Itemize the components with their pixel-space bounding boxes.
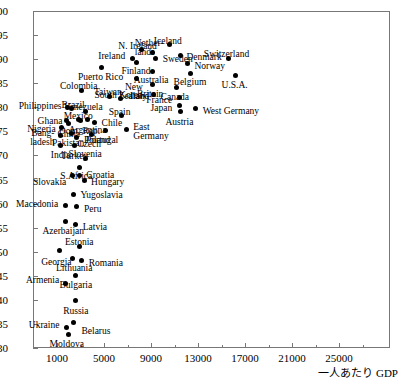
y-tick-label: 65 <box>0 174 8 185</box>
y-tick-label: 70 <box>0 150 8 161</box>
y-tick-label: 100 <box>0 6 8 17</box>
data-point <box>134 60 139 65</box>
data-point-label: Chile <box>102 118 123 128</box>
y-tick-mark <box>33 300 38 301</box>
y-tick-mark <box>33 83 38 84</box>
y-tick-label: 60 <box>0 198 8 209</box>
x-tick-mark <box>245 343 246 348</box>
data-point <box>71 192 76 197</box>
data-point-label: Austria <box>165 117 193 127</box>
data-point <box>150 82 155 87</box>
x-tick-mark-minor <box>175 345 176 348</box>
x-tick-mark <box>292 343 293 348</box>
data-point-label: Venezuela <box>64 102 103 112</box>
y-tick-label: 40 <box>0 294 8 305</box>
data-point-label: Romania <box>89 258 123 268</box>
data-point <box>153 56 158 61</box>
data-point-label: Russia <box>63 306 88 316</box>
x-tick-mark <box>151 343 152 348</box>
y-tick-mark <box>33 155 38 156</box>
x-tick-label: 1000 <box>46 353 68 364</box>
x-tick-label: 25000 <box>325 353 353 364</box>
data-point-label: Belarus <box>81 326 110 336</box>
x-tick-label: 17000 <box>231 353 259 364</box>
data-point-label: EastGermany <box>133 123 168 141</box>
data-point-label: Bulgaria <box>59 280 92 290</box>
x-tick-mark-minor <box>363 345 364 348</box>
data-point <box>64 325 69 330</box>
y-tick-mark <box>33 59 38 60</box>
data-point-label: Moldova <box>50 339 84 349</box>
x-tick-label: 21000 <box>278 353 306 364</box>
data-point-label: Japan <box>151 103 173 113</box>
data-point-label: Switzerland <box>204 49 249 59</box>
data-point-label: Azerbaijan <box>42 226 84 236</box>
x-tick-mark-minor <box>269 345 270 348</box>
data-point-label: Latvia <box>83 222 107 232</box>
data-point-label: Spain <box>109 107 131 117</box>
x-tick-label: 5000 <box>93 353 115 364</box>
data-point-label: Georgia <box>41 257 71 267</box>
data-point-label: Philippines <box>19 101 62 111</box>
data-point-label: Puerto Rico <box>78 72 123 82</box>
data-point <box>177 103 182 108</box>
y-tick-mark <box>33 35 38 36</box>
data-point <box>178 109 183 114</box>
data-point-label: Yugoslavia <box>80 190 122 200</box>
y-tick-mark <box>33 11 38 12</box>
data-point-label: U.S.A. <box>222 80 248 90</box>
scatter-chart: 3035404550556065707580859095100 10005000… <box>0 0 402 384</box>
y-tick-label: 50 <box>0 246 8 257</box>
y-tick-label: 55 <box>0 222 8 233</box>
data-point-label: Iceland <box>154 36 182 46</box>
x-axis-title: 一人あたり GDP <box>318 367 398 379</box>
y-tick-label: 75 <box>0 126 8 137</box>
y-tick-label: 90 <box>0 54 8 65</box>
x-tick-label: 13000 <box>184 353 212 364</box>
data-point <box>92 120 97 125</box>
data-point-label: Portugal <box>86 135 118 145</box>
y-tick-label: 80 <box>0 102 8 113</box>
data-point-label: Ukraine <box>29 320 60 330</box>
data-point-label: Macedonia <box>16 199 58 209</box>
y-tick-label: 85 <box>0 78 8 89</box>
data-point-label: West Germany <box>203 106 259 116</box>
x-tick-label: 9000 <box>140 353 162 364</box>
x-tick-mark-minor <box>128 345 129 348</box>
data-point-label: Ireland <box>98 51 125 61</box>
data-point <box>124 127 129 132</box>
data-point-label: Colombia <box>60 81 97 91</box>
x-tick-mark-minor <box>316 345 317 348</box>
data-point-label: Armenia <box>26 275 59 285</box>
y-tick-mark <box>33 228 38 229</box>
data-point-label: S.Africa <box>60 171 92 181</box>
y-tick-label: 30 <box>0 343 8 354</box>
y-tick-mark <box>33 252 38 253</box>
x-tick-mark <box>104 343 105 348</box>
x-tick-mark <box>339 343 340 348</box>
y-tick-label: 45 <box>0 270 8 281</box>
y-tick-mark <box>33 348 38 349</box>
x-tick-mark-minor <box>222 345 223 348</box>
data-point <box>177 95 182 100</box>
y-tick-label: 35 <box>0 318 8 329</box>
data-point-label: Norway <box>194 61 225 71</box>
data-point-label: Slovenia <box>69 149 102 159</box>
data-point <box>150 69 155 74</box>
data-point <box>71 320 76 325</box>
x-tick-mark <box>198 343 199 348</box>
data-point-label: Estonia <box>65 237 94 247</box>
data-point-label: Peru <box>84 204 101 214</box>
y-tick-label: 95 <box>0 30 8 41</box>
data-point-label: Italy <box>130 91 147 101</box>
